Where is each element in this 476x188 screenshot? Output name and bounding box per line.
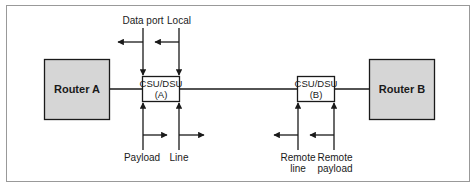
router-b: Router B <box>370 60 435 120</box>
remote-line-loopback: Remote line <box>274 103 316 174</box>
local-label: Local <box>167 15 191 26</box>
csu-b-line2: (B) <box>310 89 323 100</box>
csu-dsu-a: CSU/DSU (A) <box>140 77 183 102</box>
line-loopback: Line <box>170 103 204 163</box>
remote-line-label-1: Remote <box>280 152 315 163</box>
remote-payload-label-2: payload <box>317 163 352 174</box>
payload-loopback: Payload <box>124 103 167 163</box>
remote-line-label-2: line <box>290 163 306 174</box>
csu-a-line1: CSU/DSU <box>140 78 183 89</box>
csu-a-line2: (A) <box>155 89 168 100</box>
data-port-label: Data port <box>122 15 163 26</box>
csu-dsu-b: CSU/DSU (B) <box>295 77 338 102</box>
payload-label: Payload <box>124 152 160 163</box>
line-label: Line <box>170 152 189 163</box>
remote-payload-loopback: Remote payload <box>310 103 353 174</box>
remote-payload-label-1: Remote <box>317 152 352 163</box>
csu-b-line1: CSU/DSU <box>295 78 338 89</box>
router-a-label: Router A <box>54 83 100 95</box>
router-b-label: Router B <box>379 83 426 95</box>
loopback-diagram: Router A Router B CSU/DSU (A) CSU/DSU (B… <box>0 0 476 188</box>
router-a: Router A <box>45 60 110 120</box>
data-port-loopback: Data port <box>118 15 164 75</box>
